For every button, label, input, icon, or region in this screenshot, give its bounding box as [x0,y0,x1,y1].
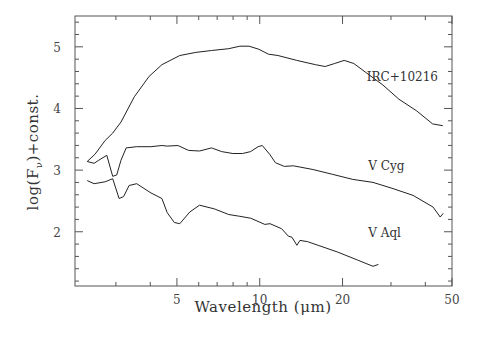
y-tick-label: 5 [53,41,61,55]
x-tick-label: 20 [335,293,350,307]
series-label: V Cyg [367,159,404,173]
spectrum-line-v-cyg [87,146,443,218]
plot-border [75,16,452,286]
spectrum-line-v-aql [87,179,378,267]
y-tick-label: 2 [53,226,61,240]
y-tick-label: 4 [53,102,61,116]
y-axis-title: log(Fν)+const. [24,94,44,211]
x-tick-label: 5 [173,293,181,307]
x-tick-label: 50 [444,293,459,307]
series-labels: IRC+10216V CygV Aql [367,70,438,239]
y-tick-label: 3 [53,164,61,178]
spectra-chart: 51020502345 IRC+10216V CygV Aql Waveleng… [0,0,482,337]
plot-frame [75,16,452,286]
series-label: V Aql [367,226,401,240]
x-axis-title: Wavelength (μm) [195,298,332,316]
series-label: IRC+10216 [367,70,438,84]
spectrum-line-irc-10216 [87,46,443,161]
